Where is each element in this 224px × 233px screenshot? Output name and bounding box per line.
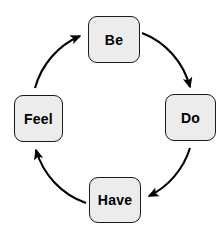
- node-be-label: Be: [105, 33, 123, 47]
- node-feel-label: Feel: [24, 112, 53, 126]
- node-be[interactable]: Be: [88, 16, 140, 63]
- arrow-be-to-do: [142, 33, 190, 87]
- node-have[interactable]: Have: [89, 177, 141, 223]
- node-do-label: Do: [181, 111, 200, 125]
- arrow-feel-to-be: [35, 36, 80, 88]
- node-have-label: Have: [98, 193, 132, 207]
- cycle-diagram: Be Do Have Feel: [0, 0, 224, 233]
- node-do[interactable]: Do: [165, 94, 216, 141]
- arrow-do-to-have: [149, 148, 190, 196]
- arrow-have-to-feel: [36, 150, 86, 203]
- node-feel[interactable]: Feel: [14, 95, 63, 142]
